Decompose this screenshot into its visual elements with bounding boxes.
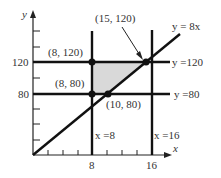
tick-label-x-8: 8 — [89, 159, 95, 171]
tick-label-y-120: 120 — [12, 56, 29, 68]
point-15-120 — [143, 59, 150, 66]
label-line-y-80: y =80 — [174, 88, 200, 100]
y-axis-label: y — [21, 8, 27, 20]
graph: y x 8 16 120 80 y = 8x y =120 y =80 x =8… — [0, 0, 221, 178]
point-10-80 — [105, 91, 112, 98]
pointer-arrowhead-icon — [136, 51, 143, 60]
label-point-8-120: (8, 120) — [48, 46, 83, 59]
point-8-80 — [89, 91, 96, 98]
label-point-15-120: (15, 120) — [95, 12, 136, 25]
label-point-8-80: (8, 80) — [55, 77, 85, 90]
label-line-x-8: x =8 — [95, 129, 115, 141]
tick-label-y-80: 80 — [18, 88, 30, 100]
point-8-120 — [89, 59, 96, 66]
tick-label-x-16: 16 — [146, 159, 158, 171]
label-line-y-120: y =120 — [172, 56, 203, 68]
y-axis-arrow-icon — [30, 10, 36, 18]
label-point-10-80: (10, 80) — [106, 98, 141, 111]
label-line-y-8x: y = 8x — [172, 20, 201, 32]
x-axis-arrow-icon — [164, 152, 172, 158]
label-line-x-16: x =16 — [154, 129, 180, 141]
x-axis-label: x — [172, 142, 178, 154]
y-ticks — [33, 31, 40, 140]
shaded-region — [92, 62, 145, 94]
